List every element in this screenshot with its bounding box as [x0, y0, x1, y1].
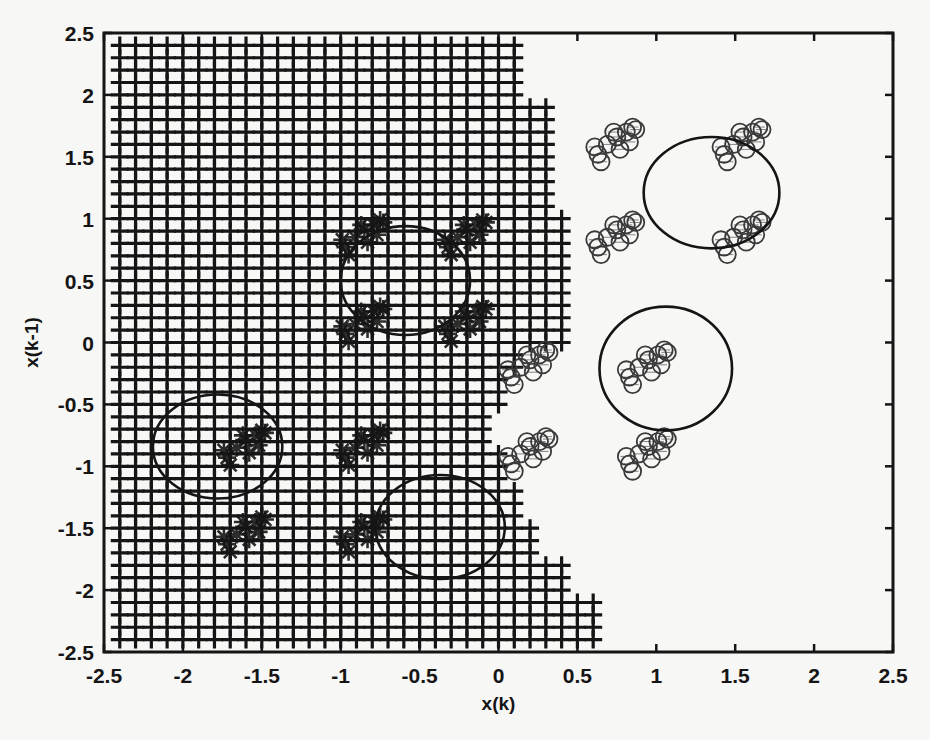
- star-marker: [352, 303, 370, 321]
- y-tick-label: 0.5: [65, 270, 95, 293]
- x-tick-label: 1.5: [721, 664, 751, 687]
- y-tick-label: -1.5: [58, 517, 95, 540]
- y-tick-label: 1: [82, 208, 94, 231]
- x-tick-label: 0: [493, 664, 505, 687]
- plus-marker: [269, 36, 287, 54]
- y-tick-label: -2.5: [58, 641, 95, 664]
- star-marker: [371, 508, 389, 526]
- star-marker: [333, 317, 351, 335]
- plus-marker: [363, 36, 381, 54]
- plus-marker: [300, 36, 318, 54]
- plus-marker: [568, 593, 586, 611]
- plus-marker: [158, 36, 176, 54]
- x-tick-label: 0.5: [563, 664, 593, 687]
- plus-marker: [316, 36, 334, 54]
- x-tick-label: 2: [808, 664, 820, 687]
- star-marker: [250, 436, 268, 454]
- plus-marker: [537, 556, 555, 574]
- x-tick-label: 2.5: [878, 664, 908, 687]
- plus-marker: [553, 556, 571, 574]
- star-marker: [474, 211, 492, 229]
- y-tick-label: -1: [75, 455, 94, 478]
- star-marker: [234, 513, 252, 531]
- plus-marker: [284, 36, 302, 54]
- star-marker: [234, 426, 252, 444]
- star-marker: [215, 441, 233, 459]
- plus-marker: [379, 36, 397, 54]
- star-marker: [371, 298, 389, 316]
- star-marker: [333, 528, 351, 546]
- y-tick-label: -0.5: [58, 393, 95, 416]
- star-marker: [333, 441, 351, 459]
- plus-marker: [553, 210, 571, 228]
- x-tick-label: -2.5: [86, 664, 123, 687]
- plus-marker: [395, 36, 413, 54]
- plus-marker: [458, 36, 476, 54]
- plus-marker: [537, 98, 555, 116]
- boundary-circle: [644, 137, 780, 248]
- plus-marker: [584, 593, 602, 611]
- plus-marker: [190, 36, 208, 54]
- boundary-circle: [599, 307, 732, 431]
- y-tick-label: 1.5: [65, 146, 95, 169]
- y-tick-label: -2: [75, 579, 94, 602]
- star-marker: [352, 513, 370, 531]
- x-tick-labels: -2.5-2-1.5-1-0.500.511.522.5: [86, 664, 908, 687]
- plus-marker: [221, 36, 239, 54]
- x-tick-label: -0.5: [402, 664, 439, 687]
- y-tick-label: 0: [82, 332, 94, 355]
- star-marker: [455, 216, 473, 234]
- y-tick-label: 2.5: [65, 22, 95, 45]
- y-axis-label: x(k-1): [21, 317, 42, 368]
- x-axis-label: x(k): [482, 693, 516, 714]
- star-marker: [253, 508, 271, 526]
- plus-marker: [521, 519, 539, 537]
- star-marker: [352, 216, 370, 234]
- circle-marker-clusters: [499, 119, 770, 480]
- y-tick-labels: -2.5-2-1.5-1-0.500.511.522.5: [58, 22, 95, 664]
- x-tick-label: -1: [331, 664, 350, 687]
- plus-marker: [111, 36, 129, 54]
- star-marker: [474, 298, 492, 316]
- plus-marker: [205, 36, 223, 54]
- star-marker: [333, 231, 351, 249]
- scatter-chart: -2.5-2-1.5-1-0.500.511.522.5 -2.5-2-1.5-…: [0, 0, 930, 740]
- star-marker: [253, 421, 271, 439]
- plus-marker: [426, 36, 444, 54]
- plus-marker: [347, 36, 365, 54]
- star-marker: [471, 312, 489, 330]
- x-tick-label: -1.5: [244, 664, 281, 687]
- star-marker: [371, 211, 389, 229]
- plus-marker: [142, 36, 160, 54]
- y-tick-label: 2: [82, 84, 94, 107]
- plus-marker: [521, 98, 539, 116]
- star-marker: [250, 523, 268, 541]
- star-marker: [368, 436, 386, 454]
- star-marker: [371, 421, 389, 439]
- plus-marker: [505, 482, 523, 500]
- plus-marker: [505, 36, 523, 54]
- star-marker: [471, 226, 489, 244]
- x-tick-label: -2: [174, 664, 193, 687]
- plus-marker: [442, 36, 460, 54]
- plus-marker: [237, 36, 255, 54]
- x-tick-label: 1: [650, 664, 662, 687]
- plus-marker: [474, 36, 492, 54]
- star-marker: [352, 426, 370, 444]
- plus-marker: [127, 36, 145, 54]
- star-marker: [215, 528, 233, 546]
